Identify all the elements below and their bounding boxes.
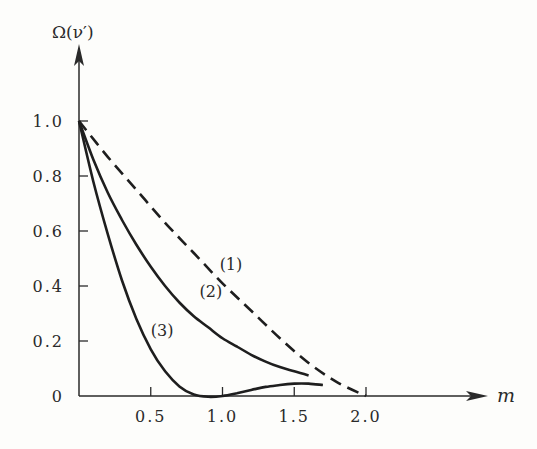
curve-label-1: (1) xyxy=(220,255,243,274)
y-tick-label: 0.8 xyxy=(33,167,64,186)
x-tick-label: 2.0 xyxy=(350,407,381,426)
x-axis-title: m xyxy=(497,384,515,406)
curve-3 xyxy=(79,121,323,397)
curve-label-3: (3) xyxy=(151,321,174,340)
y-axis-title: Ω(ν′) xyxy=(52,22,94,42)
y-tick-label: 0.2 xyxy=(33,332,64,351)
x-tick-label: 1.5 xyxy=(279,407,310,426)
x-tick-label: 1.0 xyxy=(207,407,238,426)
curve-labels: (1)(2)(3) xyxy=(151,255,243,340)
y-tick-label: 0 xyxy=(52,387,64,406)
curve-2 xyxy=(79,121,309,375)
y-tick-label: 0.4 xyxy=(33,277,64,296)
x-tick-label: 0.5 xyxy=(135,407,166,426)
y-tick-label: 1.0 xyxy=(33,112,64,131)
chart: 0.51.01.52.000.20.40.60.81.0 (1)(2)(3) Ω… xyxy=(0,0,537,449)
y-tick-label: 0.6 xyxy=(33,222,64,241)
axes xyxy=(79,58,478,396)
curve-label-2: (2) xyxy=(200,282,223,301)
